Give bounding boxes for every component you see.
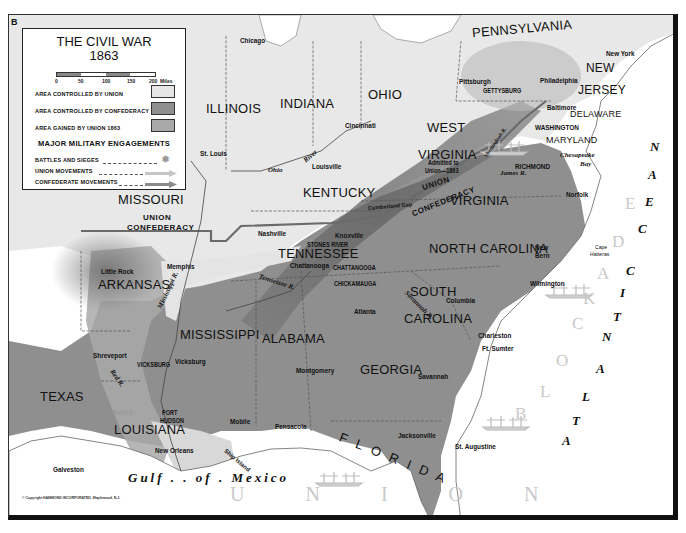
- city-new-york: New York: [606, 50, 634, 58]
- city-louisville: Louisville: [312, 163, 341, 171]
- state-label-louisiana: LOUISIANA: [114, 423, 185, 436]
- battle-port-hudson-2: HUDSON: [160, 418, 184, 425]
- leader-dots: [103, 163, 157, 164]
- james-river-label: James R.: [500, 170, 526, 177]
- cape-hatteras-label: Cape: [595, 244, 607, 250]
- city-galveston: Galveston: [53, 466, 84, 474]
- city-norfolk: Norfolk: [566, 191, 588, 199]
- ohio-river-label: Ohio: [268, 167, 282, 174]
- scale-tick: 150: [127, 78, 135, 84]
- state-label-arkansas: ARKANSAS: [98, 278, 170, 291]
- legend-confederate-movements-label: CONFEDERATE MOVEMENTS: [35, 179, 118, 185]
- city-mobile: Mobile: [230, 418, 250, 426]
- engagements-heading: MAJOR MILITARY ENGAGEMENTS: [23, 139, 185, 148]
- legend-union-label: AREA CONTROLLED BY UNION: [35, 91, 123, 97]
- battle-burst-icon: ✹: [161, 153, 170, 166]
- city-charleston: Charleston: [478, 332, 511, 340]
- title-text: THE CIVIL WAR: [23, 35, 185, 49]
- scale-tick: 100: [102, 78, 110, 84]
- atlantic-letter: E: [645, 195, 654, 208]
- wv-admitted-note-2: Union—1863: [425, 168, 458, 175]
- city-pittsburgh: Pittsburgh: [459, 78, 491, 86]
- state-label-missouri: MISSOURI: [118, 193, 184, 206]
- state-label-texas: TEXAS: [40, 390, 84, 403]
- state-label-north-carolina: NORTH CAROLINA: [429, 242, 548, 255]
- blockade-letter: B: [515, 405, 526, 422]
- battle-gettysburg: GETTYSBURG: [483, 88, 521, 95]
- confederate-arrow-icon: [145, 181, 177, 188]
- battle-chickamauga: CHICKAMAUGA: [334, 281, 376, 288]
- leader-dots: [99, 174, 143, 175]
- state-label-delaware: DELAWARE: [570, 110, 621, 119]
- chesapeake-label: Chesapeake: [560, 152, 595, 159]
- state-label-mississippi: MISSISSIPPI: [180, 328, 260, 341]
- state-label-georgia: GEORGIA: [360, 363, 422, 376]
- battle-vicksburg: VICKSBURG: [137, 362, 170, 369]
- confederacy-line-label-west: CONFEDERACY: [127, 224, 194, 232]
- city-savannah: Savannah: [418, 373, 448, 381]
- city-montgomery: Montgomery: [296, 367, 334, 375]
- city-cincinnati: Cincinnati: [345, 122, 376, 130]
- state-label-west: WEST: [427, 121, 465, 134]
- legend-union-movements-label: UNION MOVEMENTS: [35, 168, 93, 174]
- blockade-letter: K: [583, 290, 595, 307]
- city-vicksburg: Vicksburg: [175, 358, 206, 366]
- state-label-illinois: ILLINOIS: [206, 102, 261, 115]
- battle-chattanooga: CHATTANOOGA: [333, 265, 376, 272]
- battle-stones-river: STONES RIVER: [307, 242, 348, 249]
- corner-letter: B: [11, 17, 18, 27]
- city-little-rock: Little Rock: [101, 268, 134, 276]
- union-blockade-gulf-label: U N I O N: [230, 484, 566, 504]
- state-label-new-jersey-2: JERSEY: [578, 84, 626, 96]
- city-shreveport: Shreveport: [93, 352, 127, 360]
- scale-unit: Miles: [160, 78, 173, 84]
- city-new-bern-2: Bern: [535, 252, 550, 260]
- blockade-letter: O: [556, 352, 568, 369]
- blockade-letter: E: [625, 195, 635, 212]
- title-year: 1863: [23, 49, 185, 63]
- atlantic-letter: A: [562, 434, 571, 447]
- battle-port-hudson: PORT: [162, 410, 177, 417]
- city-memphis: Memphis: [167, 263, 195, 271]
- city-washington: WASHINGTON: [535, 124, 579, 132]
- atlantic-letter: N: [602, 330, 611, 343]
- city-new-orleans: New Orleans: [155, 447, 194, 455]
- legend-gained-swatch: [151, 119, 175, 132]
- atlantic-letter: C: [626, 264, 635, 277]
- city-columbia: Columbia: [446, 297, 475, 305]
- scale-bar-graphic: [56, 72, 156, 77]
- legend-confederacy-swatch: [151, 102, 175, 115]
- city-jacksonville: Jacksonville: [398, 432, 436, 440]
- state-label-kentucky: KENTUCKY: [303, 186, 375, 199]
- city-wilmington: Wilmington: [530, 280, 565, 288]
- city-pensacola: Pensacola: [275, 423, 307, 431]
- atlantic-letter: A: [596, 362, 605, 375]
- blockade-letter: D: [612, 233, 624, 250]
- atlantic-letter: L: [582, 390, 590, 403]
- state-label-new-jersey-1: NEW: [586, 62, 615, 74]
- scale-bar: 0 50 100 150 200 Miles: [56, 72, 154, 78]
- atlantic-letter: T: [572, 414, 580, 427]
- blockade-letter: A: [597, 265, 609, 282]
- city-ft-sumter: Ft. Sumter: [482, 345, 514, 353]
- legend-confederacy-label: AREA CONTROLLED BY CONFEDERACY: [35, 108, 149, 114]
- atlantic-letter: A: [648, 168, 657, 181]
- atlantic-letter: C: [638, 222, 647, 235]
- scale-tick: 0: [55, 78, 58, 84]
- legend-battles-label: BATTLES AND SIEGES: [35, 157, 99, 163]
- leader-dots: [119, 185, 143, 186]
- copyright-notice: © Copyright HAMMOND INCORPORATED, Maplew…: [22, 496, 120, 500]
- legend-union-swatch: [151, 85, 175, 98]
- union-line-label-west: UNION: [143, 214, 171, 222]
- atlantic-letter: T: [613, 310, 621, 323]
- chesapeake-label-2: Bay: [580, 161, 591, 168]
- banks-movement-label: BANKS: [113, 410, 133, 417]
- city-atlanta: Atlanta: [354, 308, 376, 316]
- city-chattanooga: Chattanooga: [290, 262, 329, 270]
- cape-hatteras-label-2: Hatteras: [590, 251, 609, 257]
- state-label-carolina: CAROLINA: [404, 312, 472, 325]
- legend-gained-label: AREA GAINED BY UNION 1863: [35, 125, 120, 131]
- city-knoxville: Knoxville: [335, 232, 363, 240]
- city-philadelphia: Philadelphia: [540, 77, 578, 85]
- city-st-louis: St. Louis: [200, 150, 227, 158]
